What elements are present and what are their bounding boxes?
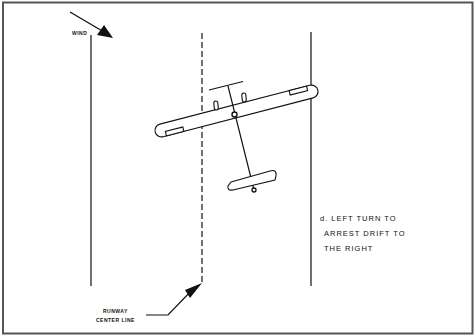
caption-line1: d. LEFT TURN TO — [320, 214, 397, 223]
wind-label: WIND — [72, 30, 87, 36]
propeller — [209, 82, 243, 91]
wing-hub — [232, 112, 237, 117]
tail-hub — [252, 188, 256, 192]
horizontal-stabilizer — [228, 171, 276, 191]
airplane-icon — [154, 82, 320, 193]
caption-line2: ARREST DRIFT TO — [324, 229, 406, 238]
diagram-border — [3, 3, 473, 334]
centerline-label-line2: CENTER LINE — [96, 317, 135, 323]
right-gear — [242, 93, 247, 102]
left-gear — [214, 101, 219, 110]
caption-line3: THE RIGHT — [324, 244, 373, 253]
diagram-canvas — [0, 0, 475, 336]
centerline-label-line1: RUNWAY — [103, 308, 128, 314]
centerline-leader-arrow-icon — [146, 283, 202, 315]
